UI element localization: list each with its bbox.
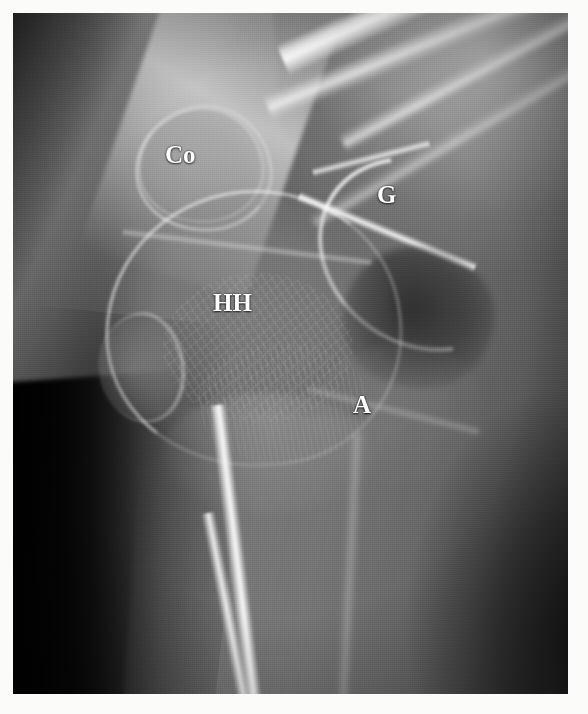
radiograph-plate: Co G HH A — [13, 13, 568, 694]
trabecular-texture — [198, 343, 368, 463]
anatomic-neck-line — [123, 228, 372, 266]
glenoid-fossa-shadow — [325, 228, 511, 408]
clavicle-structure — [276, 13, 568, 76]
surgical-neck-flare — [163, 393, 373, 513]
humeral-head-cortical-rim — [93, 178, 413, 480]
scapular-spine-structure — [79, 13, 362, 302]
film-base-layer — [13, 13, 568, 694]
radiograph-plate-border: Co G HH A — [13, 13, 568, 694]
coracoid-process-structure — [131, 100, 271, 231]
trabecular-texture — [163, 273, 353, 423]
radiograph-figure: Co G HH A — [0, 0, 588, 714]
glenoid-articular-arc — [280, 118, 563, 392]
greater-tuberosity-structure — [90, 306, 194, 429]
film-grain-overlay — [13, 13, 568, 694]
upper-right-soft-tissue — [161, 13, 568, 373]
annotation-label-coracoid: Co — [165, 142, 196, 167]
humeral-shaft-structure — [123, 404, 403, 694]
acromion-structure — [299, 325, 498, 502]
humeral-head-structure — [97, 181, 404, 470]
scapular-body-structure — [13, 13, 298, 383]
clavicle-inferior-cortex — [263, 13, 568, 120]
lower-left-background-wedge — [13, 302, 254, 694]
humeral-medial-cortex — [209, 404, 264, 694]
film-vignette-overlay — [13, 13, 568, 694]
glenoid-superior-line — [312, 139, 431, 177]
humeral-lateral-cortex — [335, 433, 363, 694]
humeral-medial-cortex — [201, 512, 256, 694]
annotation-label-acromion: A — [353, 392, 371, 417]
rib-structure — [309, 64, 569, 230]
left-background-shadow — [13, 13, 163, 694]
acromion-edge-line — [308, 385, 480, 436]
annotation-label-humeral-head: HH — [213, 290, 252, 315]
rib-structure — [338, 13, 568, 152]
coracoid-cortical-rim — [127, 96, 280, 241]
annotation-label-glenoid: G — [377, 182, 396, 207]
